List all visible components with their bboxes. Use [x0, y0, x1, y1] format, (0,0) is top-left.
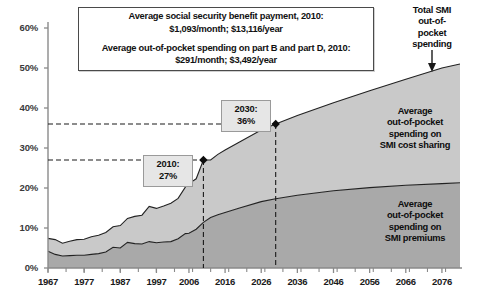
note-box: Average social security benefit payment,… [78, 7, 374, 71]
chart-figure: 0%10%20%30%40%50%60% 1967197719871997200… [0, 0, 482, 295]
total-spending-callout: Total SMI out-of- pocket spending [386, 5, 478, 51]
x-tick-label: 2006 [169, 276, 209, 287]
note-line-3: Average out-of-pocket spending on part B… [102, 43, 351, 55]
x-tick-label: 2066 [386, 276, 426, 287]
cost-sharing-label: Average out-of-pocket spending on SMI co… [352, 106, 478, 152]
premiums-line-1: Average [352, 199, 478, 210]
x-tick-label: 2026 [241, 276, 281, 287]
note-line-4: $291/month; $3,492/year [175, 55, 277, 67]
total-callout-line-2: out-of- [386, 16, 478, 27]
total-callout-line-3: pocket [386, 28, 478, 39]
x-tick-label: 2036 [277, 276, 317, 287]
callout-2030-line-2: 36% [229, 116, 263, 128]
x-tick-label: 2056 [350, 276, 390, 287]
y-tick-label: 10% [4, 222, 38, 233]
x-tick-label: 2046 [314, 276, 354, 287]
note-line-1: Average social security benefit payment,… [129, 11, 324, 23]
y-tick-label: 60% [4, 22, 38, 33]
cost-sharing-line-4: SMI cost sharing [352, 140, 478, 151]
x-tick-label: 1987 [100, 276, 140, 287]
callout-2010: 2010: 27% [143, 155, 193, 187]
premiums-line-3: spending on [352, 222, 478, 233]
x-tick-label: 2016 [205, 276, 245, 287]
cost-sharing-line-2: out-of-pocket [352, 117, 478, 128]
total-callout-line-1: Total SMI [386, 5, 478, 16]
premiums-line-4: SMI premiums [352, 233, 478, 244]
y-tick-label: 30% [4, 142, 38, 153]
note-line-2: $1,093/month; $13,116/year [169, 24, 282, 36]
cost-sharing-line-1: Average [352, 106, 478, 117]
callout-2010-line-2: 27% [151, 171, 185, 183]
cost-sharing-line-3: spending on [352, 129, 478, 140]
y-tick-label: 0% [4, 262, 38, 273]
premiums-line-2: out-of-pocket [352, 210, 478, 221]
callout-2010-line-1: 2010: [151, 159, 185, 171]
y-tick-label: 40% [4, 102, 38, 113]
y-tick-label: 50% [4, 62, 38, 73]
callout-2030-line-1: 2030: [229, 104, 263, 116]
x-tick-label: 1977 [64, 276, 104, 287]
total-callout-line-4: spending [386, 39, 478, 50]
y-tick-label: 20% [4, 182, 38, 193]
x-tick-label: 1967 [28, 276, 68, 287]
x-tick-label: 2076 [422, 276, 462, 287]
callout-2030: 2030: 36% [221, 100, 271, 132]
premiums-label: Average out-of-pocket spending on SMI pr… [352, 199, 478, 245]
